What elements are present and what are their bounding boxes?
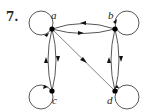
node-b: [112, 26, 117, 31]
node-d: [112, 88, 117, 93]
node-label-c: c: [52, 94, 57, 106]
node-c: [49, 88, 54, 93]
edge-c-to-a: [48, 29, 52, 91]
arrow-head-icon: [119, 56, 123, 62]
edge-a-to-c: [52, 29, 56, 91]
node-label-d: d: [107, 94, 113, 106]
arrow-head-icon: [80, 21, 86, 25]
arrow-head-icon: [44, 57, 48, 63]
loop-edge-d: [115, 85, 139, 109]
node-a: [49, 26, 54, 31]
arrow-head-icon: [107, 57, 111, 63]
edge-d-to-b: [111, 29, 115, 91]
edge-a-to-b: [52, 29, 115, 34]
loop-edge-c: [29, 85, 53, 109]
loop-edge-b: [115, 11, 139, 35]
arrow-head-icon: [56, 56, 60, 62]
edge-b-to-a: [52, 24, 115, 30]
directed-graph: a b c d: [0, 0, 147, 110]
node-label-a: a: [51, 9, 57, 21]
loop-edge-a: [29, 11, 53, 35]
edge-b-to-d: [115, 29, 119, 91]
arrow-head-icon: [78, 31, 84, 35]
node-label-b: b: [108, 9, 114, 21]
